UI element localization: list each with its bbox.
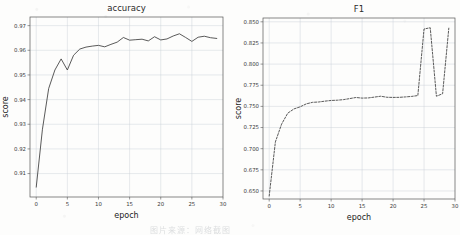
- y-tick-label: 0.725: [244, 124, 259, 130]
- y-tick-label: 0.750: [244, 103, 260, 109]
- accuracy-plot-svg: accuracy0.910.920.930.940.950.960.970510…: [0, 0, 230, 235]
- x-tick-label: 25: [421, 203, 428, 209]
- x-tick-label: 20: [390, 203, 397, 209]
- data-series-line: [269, 28, 449, 196]
- x-tick-label: 20: [157, 201, 164, 207]
- x-tick-label: 0: [267, 203, 271, 209]
- x-axis-label: epoch: [347, 213, 371, 222]
- x-tick-label: 30: [220, 201, 227, 207]
- y-tick-label: 0.775: [244, 82, 259, 88]
- y-tick-label: 0.91: [14, 170, 26, 176]
- y-tick-label: 0.650: [244, 188, 260, 194]
- y-tick-label: 0.97: [14, 23, 26, 29]
- x-tick-label: 30: [452, 203, 459, 209]
- y-tick-label: 0.675: [244, 167, 259, 173]
- figure-caption: 图片来源：网络截图: [150, 224, 350, 235]
- x-axis-label: epoch: [114, 211, 138, 220]
- x-tick-label: 15: [359, 203, 366, 209]
- y-tick-label: 0.93: [14, 121, 26, 127]
- y-axis-label: score: [234, 98, 243, 120]
- chart-title: accuracy: [107, 3, 145, 13]
- y-axis-label: score: [1, 96, 10, 118]
- f1-plot-svg: F10.6500.6750.7000.7250.7500.7750.8000.8…: [230, 0, 460, 235]
- plot-frame: [30, 17, 223, 197]
- chart-title: F1: [354, 4, 364, 14]
- x-tick-label: 5: [298, 203, 301, 209]
- x-tick-label: 5: [66, 201, 69, 207]
- y-tick-label: 0.94: [14, 97, 27, 103]
- y-tick-label: 0.850: [244, 19, 260, 25]
- y-tick-label: 0.96: [14, 47, 27, 53]
- y-tick-label: 0.700: [244, 146, 260, 152]
- y-tick-label: 0.825: [244, 40, 259, 46]
- x-tick-label: 10: [328, 203, 335, 209]
- data-series-line: [36, 34, 217, 187]
- x-tick-label: 10: [95, 201, 102, 207]
- y-tick-label: 0.800: [244, 61, 260, 67]
- x-tick-label: 25: [188, 201, 195, 207]
- x-tick-label: 0: [35, 201, 39, 207]
- x-tick-label: 15: [126, 201, 133, 207]
- chart-panel-f1: F10.6500.6750.7000.7250.7500.7750.8000.8…: [230, 0, 460, 235]
- y-tick-label: 0.95: [14, 72, 26, 78]
- plot-frame: [263, 18, 455, 199]
- y-tick-label: 0.92: [14, 146, 26, 152]
- chart-panel-accuracy: accuracy0.910.920.930.940.950.960.970510…: [0, 0, 230, 235]
